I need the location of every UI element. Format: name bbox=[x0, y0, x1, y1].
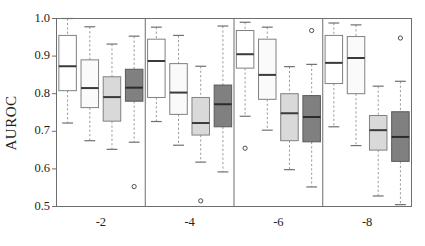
box-rect bbox=[170, 64, 188, 115]
box-rect bbox=[325, 35, 343, 83]
boxplot-box bbox=[369, 86, 387, 196]
x-tick-label: -4 bbox=[160, 215, 220, 230]
boxplot-box bbox=[59, 19, 77, 124]
box-rect bbox=[81, 60, 99, 108]
box-rect bbox=[369, 116, 387, 151]
box-rect bbox=[303, 96, 321, 142]
boxplot-box bbox=[192, 66, 210, 203]
x-tick-label: -8 bbox=[337, 215, 397, 230]
boxplot-box bbox=[214, 26, 232, 172]
y-tick-label: 1.0 bbox=[16, 11, 50, 26]
boxplot-box bbox=[303, 28, 321, 187]
boxplot-box bbox=[125, 36, 143, 189]
box-rect bbox=[214, 85, 232, 127]
boxplot-box bbox=[236, 22, 254, 150]
y-tick-label: 0.5 bbox=[16, 199, 50, 214]
box-rect bbox=[236, 31, 254, 69]
box-rect bbox=[103, 77, 121, 121]
boxplot-box bbox=[81, 27, 99, 141]
outlier-point bbox=[243, 146, 247, 150]
x-tick-label: -2 bbox=[71, 215, 131, 230]
y-tick-label: 0.7 bbox=[16, 123, 50, 138]
boxplot-box bbox=[281, 67, 299, 170]
boxplot-box bbox=[347, 25, 365, 146]
box-rect bbox=[59, 35, 77, 90]
outlier-point bbox=[398, 36, 402, 40]
boxplot-box bbox=[392, 36, 410, 205]
y-tick-label: 0.6 bbox=[16, 161, 50, 176]
boxplot-box bbox=[103, 44, 121, 149]
boxplot-figure: AUROC 1.00.90.80.70.60.5 -2-4-6-8 bbox=[0, 0, 425, 246]
box-rect bbox=[148, 39, 166, 97]
y-tick-label: 0.9 bbox=[16, 48, 50, 63]
box-rect bbox=[259, 39, 277, 99]
boxplot-box bbox=[148, 27, 166, 121]
outlier-point bbox=[132, 184, 136, 188]
boxplot-box bbox=[325, 23, 343, 127]
box-rect bbox=[281, 94, 299, 141]
outlier-point bbox=[310, 28, 314, 32]
box-rect bbox=[347, 37, 365, 94]
x-tick-label: -6 bbox=[248, 215, 308, 230]
box-rect bbox=[192, 97, 210, 135]
y-tick-label: 0.8 bbox=[16, 86, 50, 101]
box-rect bbox=[125, 69, 143, 101]
boxplot-box bbox=[170, 35, 188, 145]
boxplot-box bbox=[259, 27, 277, 130]
plot-canvas bbox=[0, 0, 425, 246]
outlier-point bbox=[199, 199, 203, 203]
